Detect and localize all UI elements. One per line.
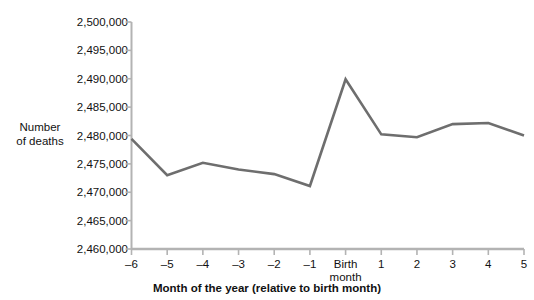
x-axis-tick-label: 5 xyxy=(494,258,534,271)
chart-figure: Number of deaths 2,500,0002,495,0002,490… xyxy=(0,0,534,300)
x-axis-tick-labels: –6–5–4–3–2–1Birth month12345 xyxy=(0,0,534,300)
x-axis-title: Month of the year (relative to birth mon… xyxy=(0,282,534,294)
